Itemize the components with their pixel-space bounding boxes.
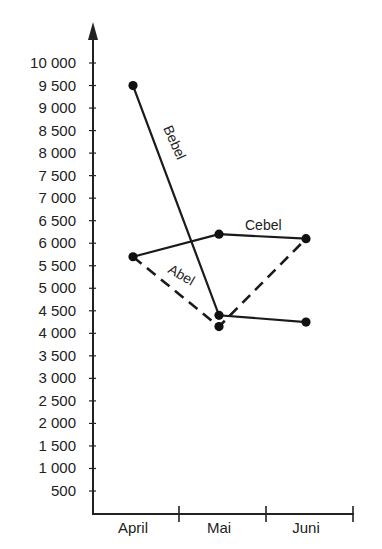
data-point — [301, 317, 310, 326]
series-lines — [128, 81, 310, 331]
y-tick-label: 10 000 — [30, 54, 76, 71]
x-tick-label: April — [118, 519, 148, 536]
y-tick-label: 3 000 — [38, 369, 76, 386]
label-cebel: Cebel — [245, 217, 282, 233]
y-tick-label: 5 500 — [38, 257, 76, 274]
y-tick-label: 9 500 — [38, 77, 76, 94]
y-tick-label: 8 500 — [38, 122, 76, 139]
y-tick-label: 7 500 — [38, 167, 76, 184]
label-bebel: Bebel — [160, 123, 189, 162]
y-tick-label: 3 500 — [38, 347, 76, 364]
y-tick-label: 4 000 — [38, 324, 76, 341]
data-point — [128, 252, 137, 261]
x-tick-label: Mai — [207, 519, 231, 536]
y-tick-label: 2 500 — [38, 392, 76, 409]
y-tick-label: 7 000 — [38, 189, 76, 206]
data-point — [214, 230, 223, 239]
y-tick-label: 9 000 — [38, 99, 76, 116]
data-point — [214, 322, 223, 331]
data-point — [214, 311, 223, 320]
y-tick-label: 1 000 — [38, 459, 76, 476]
x-axis: AprilMaiJuni — [92, 506, 354, 536]
y-tick-label: 500 — [51, 482, 76, 499]
y-tick-label: 2 000 — [38, 414, 76, 431]
x-tick-label: Juni — [292, 519, 320, 536]
y-axis: 5001 0001 5002 0002 5003 0003 5004 0004 … — [30, 22, 98, 514]
y-tick-label: 6 000 — [38, 234, 76, 251]
y-tick-label: 6 500 — [38, 212, 76, 229]
series-bebel — [133, 86, 306, 323]
line-chart: 5001 0001 5002 0002 5003 0003 5004 0004 … — [0, 0, 382, 549]
label-abel: Abel — [166, 261, 198, 289]
y-tick-label: 1 500 — [38, 437, 76, 454]
data-point — [128, 81, 137, 90]
data-point — [301, 234, 310, 243]
y-tick-label: 8 000 — [38, 144, 76, 161]
y-tick-label: 5 000 — [38, 279, 76, 296]
y-tick-label: 4 500 — [38, 302, 76, 319]
